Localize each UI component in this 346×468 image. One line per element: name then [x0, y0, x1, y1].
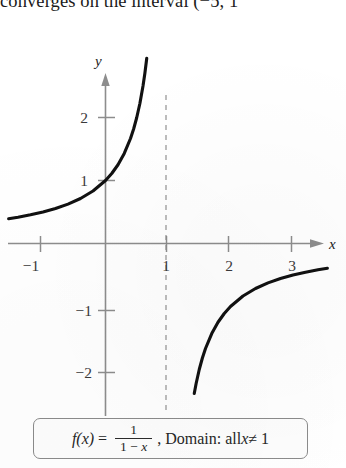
formula-caption-box: f(x) = 1 1 − x , Domain: all x ≠ 1 [33, 418, 308, 459]
x-tick-label-3: 3 [288, 257, 296, 274]
y-tick-label-neg2: −2 [76, 364, 93, 381]
arrow-right-icon [310, 239, 324, 248]
curve-right-branch [194, 268, 327, 393]
y-axis: y [93, 53, 110, 416]
x-tick-label-neg1: −1 [23, 257, 40, 274]
formula-fraction: 1 1 − x [115, 423, 152, 454]
y-tick-marks [98, 118, 115, 373]
formula: f(x) = 1 1 − x , Domain: all x ≠ 1 [72, 423, 269, 454]
curve-left-branch [9, 58, 147, 219]
formula-comma: , [157, 431, 161, 447]
fraction-numerator: 1 [123, 423, 144, 437]
x-tick-label-1: 1 [162, 257, 170, 274]
y-tick-label-neg1: −1 [76, 302, 93, 319]
x-axis: x [8, 236, 336, 252]
y-axis-label: y [93, 53, 102, 69]
fraction-denominator: 1 − x [115, 440, 152, 454]
arrow-up-icon [101, 73, 109, 86]
x-axis-label: x [328, 236, 336, 252]
function-graph-svg: y x −1 1 2 3 [0, 18, 346, 416]
domain-variable: x [241, 431, 248, 447]
formula-equals: = [98, 431, 107, 447]
domain-rest: ≠ 1 [248, 431, 269, 447]
x-tick-labels: −1 1 2 3 [23, 257, 296, 274]
y-tick-label-1: 1 [80, 172, 88, 189]
x-tick-label-2: 2 [225, 257, 233, 274]
page-running-text: converges on the interval (−5, 1 [0, 0, 346, 13]
denominator-prefix: 1 − [120, 439, 141, 454]
denominator-variable: x [141, 439, 147, 454]
graph-figure: y x −1 1 2 3 [0, 18, 346, 416]
domain-prefix: Domain: all [165, 431, 241, 447]
y-tick-label-2: 2 [80, 109, 88, 126]
y-tick-labels: 2 1 −1 −2 [76, 109, 93, 381]
formula-lhs: f(x) [72, 431, 94, 447]
